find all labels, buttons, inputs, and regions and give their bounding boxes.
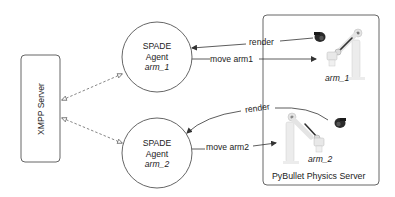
agent-arm2-text: SPADE Agent arm_2 (122, 138, 192, 170)
agent-arm1-subtitle: Agent (122, 52, 192, 63)
render-arrow-arm1-head (192, 44, 246, 48)
agent-arm1-name: arm_1 (122, 62, 192, 73)
diagram-canvas: XMPP Server SPADE Agent arm_1 SPADE Agen… (0, 0, 395, 197)
agent-arm2-subtitle: Agent (122, 149, 192, 160)
edge-label-move-arm1: move arm1 (210, 55, 253, 64)
robot-arm2-label: arm_2 (308, 155, 332, 164)
pybullet-server-label: PyBullet Physics Server (272, 172, 365, 181)
agent-arm2-title: SPADE (122, 138, 192, 149)
agent-arm1-title: SPADE (122, 41, 192, 52)
diagram-svg (0, 0, 395, 197)
xmpp-server-label: XMPP Server (36, 69, 46, 149)
robot-arm1-label: arm_1 (325, 74, 349, 83)
render-arrow-arm2-head (187, 111, 241, 133)
xmpp-agent2-link (62, 118, 122, 143)
xmpp-agent1-link (62, 74, 122, 100)
edge-label-render-arm1: render (249, 38, 274, 47)
agent-arm2-name: arm_2 (122, 159, 192, 170)
edge-label-move-arm2: move arm2 (206, 143, 249, 152)
agent-arm1-text: SPADE Agent arm_1 (122, 41, 192, 73)
